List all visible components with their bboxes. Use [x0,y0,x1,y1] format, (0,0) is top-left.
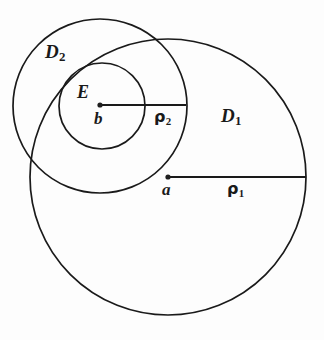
label-center-a: a [162,181,171,198]
label-radius-rho1-subscript: 1 [239,187,244,199]
label-disk-d2-subscript: 2 [59,49,65,64]
label-radius-rho2-text: ρ [154,107,165,126]
figure-canvas: D2 D1 E b a ρ2 ρ1 [0,0,324,340]
label-radius-rho2: ρ2 [154,109,171,125]
label-radius-rho1: ρ1 [227,181,244,197]
label-center-b: b [94,110,103,127]
label-disk-d2: D2 [45,42,65,61]
label-radius-rho1-text: ρ [227,179,238,198]
label-disk-d1-subscript: 1 [235,113,241,128]
center-dot-b [97,102,102,107]
label-disk-d1: D1 [221,106,241,125]
label-disk-d2-text: D [45,41,59,62]
center-dot-a [165,174,170,179]
label-radius-rho2-subscript: 2 [166,115,171,127]
label-set-e: E [77,83,89,101]
label-disk-d1-text: D [221,105,235,126]
